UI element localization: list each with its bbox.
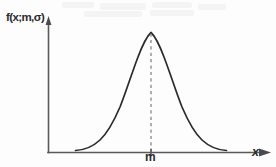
x-axis-arrowhead [259, 149, 271, 157]
figure-canvas [0, 0, 276, 167]
scan-artifacts [62, 2, 226, 17]
y-axis-label: f(x;m,σ) [6, 12, 44, 24]
y-axis-arrowhead [46, 16, 52, 25]
mean-tick-label: m [145, 151, 156, 163]
x-axis-label: x [252, 146, 259, 159]
normal-distribution-figure: f(x;m,σ) x m [0, 0, 276, 167]
